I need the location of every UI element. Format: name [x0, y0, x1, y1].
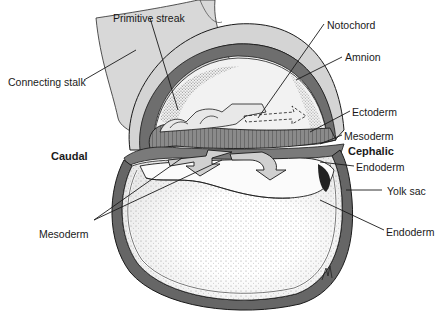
label-mesoderm-left: Mesoderm [39, 228, 89, 240]
label-mesoderm-right: Mesoderm [344, 130, 394, 142]
label-connecting-stalk: Connecting stalk [8, 76, 86, 88]
label-endoderm-upper: Endoderm [356, 161, 404, 173]
label-notochord: Notochord [327, 19, 375, 31]
label-yolk-sac: Yolk sac [387, 185, 426, 197]
label-primitive-streak: Primitive streak [113, 12, 185, 24]
label-ectoderm: Ectoderm [352, 106, 397, 118]
label-endoderm-lower: Endoderm [386, 226, 434, 238]
label-cephalic: Cephalic [348, 145, 394, 157]
label-amnion: Amnion [345, 51, 381, 63]
label-caudal: Caudal [51, 150, 88, 162]
